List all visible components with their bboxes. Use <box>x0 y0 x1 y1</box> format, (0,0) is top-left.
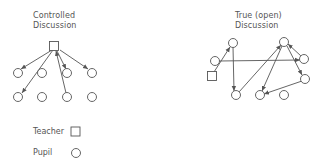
teacher-square-icon <box>208 72 217 81</box>
pupil-circle-icon <box>280 38 289 47</box>
pupil-circle-icon <box>256 91 265 100</box>
arrow-open-3 <box>239 45 281 92</box>
pupil-circle-icon <box>280 91 289 100</box>
pupil-circle-icon <box>301 75 310 84</box>
arrow-open-2 <box>219 60 300 61</box>
legend-symbols <box>71 127 81 158</box>
pupil-circle-icon <box>232 91 241 100</box>
arrow-open-6 <box>288 44 301 56</box>
pupil-circle-icon <box>14 93 23 102</box>
pupil-circle-icon <box>211 57 220 66</box>
diagram-canvas <box>0 0 320 165</box>
legend-teacher-square-icon <box>71 127 80 136</box>
pupil-circle-icon <box>88 93 97 102</box>
legend-pupil-label: Pupil <box>33 148 52 158</box>
pupil-circle-icon <box>38 93 47 102</box>
arrow-controlled-0 <box>21 50 52 69</box>
controlled-discussion-diagram <box>14 42 97 102</box>
pupil-circle-icon <box>88 69 97 78</box>
pupil-circle-icon <box>229 39 238 48</box>
arrow-open-4 <box>262 46 282 91</box>
pupil-circle-icon <box>38 69 47 78</box>
open-discussion-diagram <box>208 38 310 100</box>
pupil-circle-icon <box>63 69 72 78</box>
arrow-open-1 <box>233 47 234 91</box>
legend-pupil-circle-icon <box>72 149 81 158</box>
pupil-circle-icon <box>63 93 72 102</box>
pupil-circle-icon <box>300 55 309 64</box>
legend-teacher-label: Teacher <box>33 127 64 137</box>
teacher-square-icon <box>50 42 59 51</box>
pupil-circle-icon <box>14 69 23 78</box>
